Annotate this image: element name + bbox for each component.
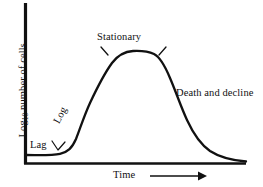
annotation-lag: Lag (30, 140, 47, 151)
growth-curve-figure: Log10 number of cells Stationary Death a… (0, 0, 263, 187)
y-axis-label-subscript: 10 (20, 113, 29, 121)
x-axis-label: Time (113, 170, 135, 181)
lag-leader-line (52, 141, 65, 150)
annotation-stationary: Stationary (97, 32, 141, 43)
stationary-left-tick (101, 47, 108, 55)
y-axis-label-prefix: Log (17, 120, 28, 137)
stationary-right-tick (159, 47, 166, 55)
annotation-death-and-decline: Death and decline (176, 88, 254, 99)
y-axis-label-suffix: number of cells (17, 43, 28, 113)
time-arrow-icon (150, 172, 207, 181)
y-axis-label: Log10 number of cells (18, 20, 29, 160)
